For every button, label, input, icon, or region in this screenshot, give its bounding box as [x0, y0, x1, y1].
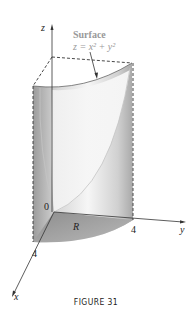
y-axis-label: y: [180, 225, 184, 235]
y-tick-4: 4: [131, 225, 136, 235]
surface-label: Surface: [73, 29, 106, 40]
origin-label: 0: [44, 202, 49, 212]
x-tick-4: 4: [32, 249, 37, 259]
figure-caption: FIGURE 31: [14, 297, 177, 307]
z-axis-label: z: [41, 23, 45, 33]
surface-equation: z = x² + y²: [73, 41, 115, 52]
region-label: R: [73, 222, 79, 232]
